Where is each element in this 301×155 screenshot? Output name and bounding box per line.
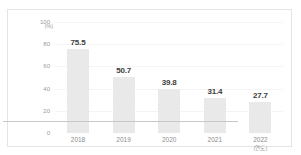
y-tick-label: 100 [34, 19, 50, 25]
x-tick-label: 2021 [192, 136, 238, 143]
bar-group [101, 22, 147, 133]
x-tick-label: 2019 [101, 136, 147, 143]
y-tick-label: 20 [34, 108, 50, 114]
chart-frame: (%) 020406080100 20182019202020212022(연도… [7, 9, 292, 147]
x-axis-unit-label: (연도) [237, 144, 283, 152]
x-axis-line [3, 121, 238, 122]
x-tick-label: 2018 [55, 136, 101, 143]
bar-value-label: 31.4 [192, 87, 238, 96]
y-tick-label: 0 [34, 130, 50, 136]
bar-group [192, 22, 238, 133]
bar-value-label: 50.7 [101, 66, 147, 75]
bar-value-label: 39.8 [146, 78, 192, 87]
x-tick-label: 2020 [146, 136, 192, 143]
bar [204, 98, 226, 133]
bar [249, 102, 271, 133]
chart-title [0, 0, 301, 5]
bar-chart-figure: (%) 020406080100 20182019202020212022(연도… [0, 0, 301, 155]
x-tick-label: 2022 [237, 136, 283, 143]
bar-group [237, 22, 283, 133]
bar [113, 77, 135, 133]
y-tick-label: 80 [34, 41, 50, 47]
bar [158, 89, 180, 133]
bar-value-label: 75.5 [55, 38, 101, 47]
y-tick-label: 40 [34, 86, 50, 92]
bar-value-label: 27.7 [237, 91, 283, 100]
y-tick-label: 60 [34, 63, 50, 69]
